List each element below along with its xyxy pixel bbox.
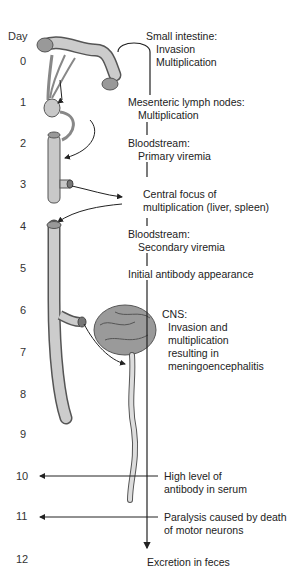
stage-line: resulting in [162, 347, 264, 360]
stage-mesenteric-lymph-nodes: Mesenteric lymph nodes: Multiplication [128, 96, 245, 122]
stage-excretion: Excretion in feces [147, 556, 230, 569]
small-intestine-icon [37, 38, 118, 100]
stage-title: Paralysis caused by death [164, 511, 287, 524]
stage-title: Bloodstream: [128, 137, 211, 150]
stage-title: High level of [164, 470, 247, 483]
stage-line: Multiplication [128, 109, 245, 122]
stage-high-antibody: High level of antibody in serum [164, 470, 247, 496]
stage-line: meningoencephalitis [162, 360, 264, 373]
stage-line: Primary viremia [128, 150, 211, 163]
stage-title: Central focus of [143, 188, 269, 201]
stage-small-intestine: Small intestine: Invasion Multiplication [146, 30, 217, 69]
stage-line: multiplication (liver, spleen) [143, 201, 269, 214]
blood-vessel-secondary-icon [47, 222, 86, 419]
stage-initial-antibody: Initial antibody appearance [128, 268, 254, 281]
stage-title: Initial antibody appearance [128, 268, 254, 281]
stage-title: Excretion in feces [147, 556, 230, 569]
pathogenesis-illustration [0, 0, 292, 582]
stage-title: Mesenteric lymph nodes: [128, 96, 245, 109]
stage-paralysis: Paralysis caused by death of motor neuro… [164, 511, 287, 537]
stage-line: multiplication [162, 334, 264, 347]
stage-title: Bloodstream: [128, 228, 225, 241]
stage-line: Invasion and [162, 321, 264, 334]
stage-central-focus: Central focus of multiplication (liver, … [143, 188, 269, 214]
stage-line: of motor neurons [164, 524, 287, 537]
stage-title: CNS: [162, 308, 264, 321]
stage-title: Small intestine: [146, 30, 217, 43]
lymph-node-icon [44, 99, 60, 117]
stage-cns: CNS: Invasion and multiplication resulti… [162, 308, 264, 373]
stage-primary-viremia: Bloodstream: Primary viremia [128, 137, 211, 163]
blood-vessel-primary-icon [48, 132, 73, 203]
stage-secondary-viremia: Bloodstream: Secondary viremia [128, 228, 225, 254]
stage-line: antibody in serum [164, 483, 247, 496]
stage-line: Multiplication [146, 56, 217, 69]
stage-line: Invasion [146, 43, 217, 56]
stage-line: Secondary viremia [128, 241, 225, 254]
